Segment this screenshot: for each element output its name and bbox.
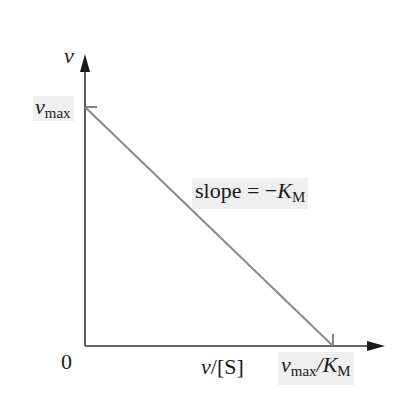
y-intercept-label: vmax: [33, 96, 74, 121]
slope-k-subscript: M: [292, 189, 305, 205]
x-intercept-max: max: [291, 363, 317, 379]
y-axis-arrow-icon: [80, 54, 90, 72]
slope-k-symbol: K: [277, 178, 292, 203]
slope-text: slope = −: [195, 178, 277, 203]
x-axis-label-v: v: [201, 354, 211, 379]
x-intercept-label: vmax/KM: [278, 352, 354, 385]
x-intercept-ksub: M: [337, 363, 350, 379]
origin-label: 0: [61, 351, 72, 373]
y-axis-label: v: [64, 45, 74, 67]
y-intercept-symbol: v: [35, 94, 45, 119]
data-line: [85, 107, 333, 346]
y-intercept-subscript: max: [45, 105, 71, 121]
x-axis-label: v/[S]: [201, 356, 244, 378]
x-intercept-v: v: [281, 352, 291, 377]
x-intercept-k: K: [323, 352, 338, 377]
slope-annotation: slope = −KM: [192, 178, 308, 209]
x-axis-arrow-icon: [367, 341, 385, 351]
x-axis-label-s: /[S]: [211, 354, 244, 379]
